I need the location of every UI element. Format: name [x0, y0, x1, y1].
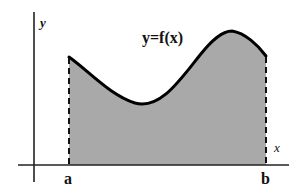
y-axis-label: y	[38, 15, 46, 30]
shaded-area	[69, 31, 266, 165]
lower-bound-label: a	[64, 170, 72, 187]
area-under-curve-diagram: y x y=f(x) a b	[0, 0, 303, 195]
upper-bound-label: b	[261, 170, 270, 187]
function-label: y=f(x)	[142, 29, 183, 47]
x-axis-label: x	[273, 140, 280, 155]
diagram-svg: y x y=f(x) a b	[0, 0, 303, 195]
